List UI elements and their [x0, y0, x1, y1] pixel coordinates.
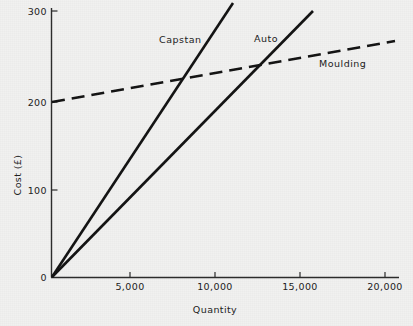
series-line-auto — [52, 11, 313, 277]
y-axis-title: Cost (£) — [12, 155, 23, 196]
axes-group — [51, 8, 399, 278]
y-tick-label-300: 300 — [28, 6, 47, 17]
x-tick-label-5000: 5,000 — [115, 281, 144, 292]
chart-root: 300 200 100 0 5,000 10,000 15,000 20,000… — [0, 0, 413, 326]
y-tick-label-200: 200 — [28, 97, 47, 108]
y-tick-label-0: 0 — [41, 272, 47, 283]
series-label-moulding: Moulding — [319, 58, 366, 69]
x-tick-labels-group: 5,000 10,000 15,000 20,000 — [115, 281, 402, 292]
x-ticks-group — [130, 272, 385, 278]
series-label-auto: Auto — [254, 33, 278, 44]
y-tick-labels-group: 300 200 100 0 — [28, 6, 47, 284]
x-tick-label-15000: 15,000 — [282, 281, 318, 292]
series-group — [52, 3, 395, 277]
cost-quantity-line-chart: 300 200 100 0 5,000 10,000 15,000 20,000… — [0, 0, 413, 326]
x-tick-label-20000: 20,000 — [367, 281, 403, 292]
series-line-capstan — [52, 3, 233, 277]
x-axis-title: Quantity — [193, 304, 237, 315]
series-line-moulding — [52, 41, 395, 102]
x-tick-label-10000: 10,000 — [197, 281, 233, 292]
y-tick-label-100: 100 — [28, 185, 47, 196]
series-label-capstan: Capstan — [159, 34, 202, 45]
